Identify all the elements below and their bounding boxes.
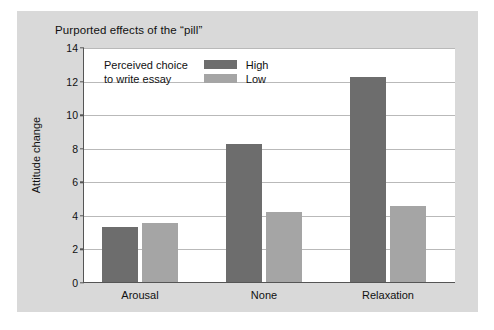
bar-relaxation-high <box>350 77 386 282</box>
y-tick-label: 14 <box>66 42 78 54</box>
x-tick-label: Relaxation <box>362 289 414 301</box>
bar-arousal-high <box>102 227 138 282</box>
legend-row: High <box>204 59 269 70</box>
legend-row: Low <box>204 73 269 84</box>
legend-title-line-2: to write essay <box>104 72 188 86</box>
chart-legend: Perceived choice to write essay HighLow <box>104 58 268 86</box>
x-tick-label: Arousal <box>121 289 158 301</box>
legend-title-line-1: Perceived choice <box>104 58 188 72</box>
bar-arousal-low <box>142 223 178 282</box>
plot-area: 02468101214 ArousalNoneRelaxation Percei… <box>83 48 455 283</box>
bar-none-high <box>226 144 262 282</box>
legend-label-low: Low <box>246 73 266 85</box>
chart-title: Purported effects of the “pill” <box>55 24 202 36</box>
y-tick-label: 12 <box>66 76 78 88</box>
y-tick-label: 8 <box>72 143 78 155</box>
y-tick-label: 10 <box>66 109 78 121</box>
bar-none-low <box>266 212 302 283</box>
legend-entries: HighLow <box>204 58 269 84</box>
y-axis-title: Attitude change <box>30 95 42 215</box>
x-tick-label: None <box>251 289 277 301</box>
y-tick-label: 6 <box>72 176 78 188</box>
legend-swatch-high <box>204 60 237 69</box>
y-tick-label: 2 <box>72 243 78 255</box>
legend-label-high: High <box>246 59 269 71</box>
y-tick-mark <box>80 282 84 283</box>
bar-relaxation-low <box>390 206 426 282</box>
y-tick-label: 0 <box>72 277 78 289</box>
y-tick-label: 4 <box>72 210 78 222</box>
legend-swatch-low <box>204 74 237 83</box>
legend-title: Perceived choice to write essay <box>104 58 188 86</box>
chart-figure: Purported effects of the “pill” Attitude… <box>17 11 478 312</box>
